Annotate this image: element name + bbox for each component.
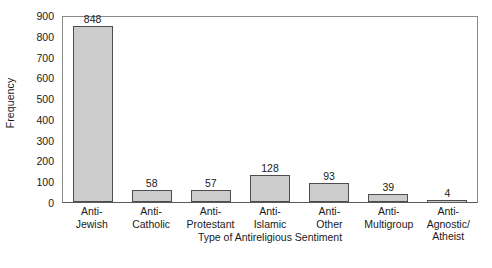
bar-value-label: 4	[444, 187, 450, 199]
y-axis-tick-label: 800	[36, 31, 54, 43]
y-axis-tick-label: 0	[48, 197, 54, 209]
bar[interactable]: 93	[309, 183, 349, 202]
y-axis-tick-label: 400	[36, 114, 54, 126]
category-label-line: Jewish	[62, 218, 121, 231]
bar-value-label: 39	[382, 181, 394, 193]
category-label-line: Anti-	[121, 205, 180, 218]
bar-value-label: 57	[205, 177, 217, 189]
y-axis-tick-label: 600	[36, 72, 54, 84]
bar[interactable]: 4	[427, 200, 467, 202]
category-label-line: Anti-	[240, 205, 299, 218]
bar[interactable]: 58	[132, 190, 172, 202]
category-label-line: Multigroup	[359, 218, 418, 231]
bar[interactable]: 848	[73, 26, 113, 202]
y-axis-title-text: Frequency	[4, 77, 16, 128]
y-axis-tick-label: 700	[36, 52, 54, 64]
bar-slot: 58	[122, 17, 181, 202]
bar-value-label: 128	[261, 162, 279, 174]
category-label-line: Agnostic/	[419, 218, 478, 231]
bar-slot: 4	[418, 17, 477, 202]
bar-slot: 57	[181, 17, 240, 202]
bar-value-label: 848	[84, 13, 102, 25]
category-label-line: Anti-	[181, 205, 240, 218]
bar[interactable]: 39	[368, 194, 408, 202]
plot-area: 848585712893394	[62, 16, 478, 203]
bar-slot: 848	[63, 17, 122, 202]
bar-value-label: 93	[323, 170, 335, 182]
y-axis-tick-labels: 0100200300400500600700800900	[18, 16, 58, 203]
bar-value-label: 58	[146, 177, 158, 189]
y-axis-tick-label: 300	[36, 135, 54, 147]
x-axis-title: Type of Antireligious Sentiment	[62, 231, 478, 243]
y-axis-tick-label: 200	[36, 155, 54, 167]
category-label-line: Anti-	[300, 205, 359, 218]
category-label-line: Anti-	[419, 205, 478, 218]
category-label-line: Anti-	[62, 205, 121, 218]
category-label-line: Islamic	[240, 218, 299, 231]
category-label-line: Catholic	[121, 218, 180, 231]
y-axis-tick-label: 500	[36, 93, 54, 105]
bar-slot: 93	[300, 17, 359, 202]
category-label-line: Other	[300, 218, 359, 231]
bar-series: 848585712893394	[63, 17, 477, 202]
y-axis-tick-label: 100	[36, 176, 54, 188]
bar[interactable]: 128	[250, 175, 290, 202]
bar-slot: 39	[359, 17, 418, 202]
y-axis-tick-label: 900	[36, 10, 54, 22]
bar-slot: 128	[240, 17, 299, 202]
y-axis-title: Frequency	[2, 0, 18, 205]
bar[interactable]: 57	[191, 190, 231, 202]
category-label-line: Protestant	[181, 218, 240, 231]
category-label-line: Anti-	[359, 205, 418, 218]
bar-chart: Frequency 0100200300400500600700800900 8…	[0, 0, 492, 268]
